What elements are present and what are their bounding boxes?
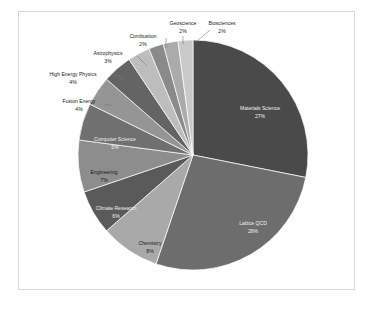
slice-percent-astrophysics: 3% bbox=[104, 58, 112, 64]
slice-label-climate-research: Climate Research bbox=[96, 205, 137, 211]
slice-percent-lattice-qcd: 26% bbox=[248, 228, 259, 234]
slice-label-biosciences: Biosciences bbox=[208, 20, 236, 26]
slice-percent-high-energy-physics: 4% bbox=[69, 79, 77, 85]
slice-label-combustion: Combustion bbox=[129, 33, 156, 39]
slice-label-lattice-qcd: Lattice QCD bbox=[239, 220, 267, 226]
slice-percent-fusion-energy: 4% bbox=[75, 106, 83, 112]
slice-label-materials-science: Materials Science bbox=[240, 105, 280, 111]
slice-label-computer-science: Computer Science bbox=[94, 136, 136, 142]
slice-label-engineering: Engineering bbox=[90, 169, 117, 175]
slice-label-geoscience: Geoscience bbox=[170, 20, 197, 26]
slice-percent-biosciences: 2% bbox=[218, 28, 226, 34]
slice-percent-geoscience: 2% bbox=[179, 28, 187, 34]
slice-label-astrophysics: Astrophysics bbox=[94, 50, 123, 56]
slice-percent-chemistry: 8% bbox=[146, 248, 154, 254]
slice-label-high-energy-physics: High Energy Physics bbox=[50, 71, 97, 77]
slice-percent-engineering: 7% bbox=[100, 177, 108, 183]
slice-percent-climate-research: 6% bbox=[112, 213, 120, 219]
slice-percent-materials-science: 27% bbox=[255, 113, 266, 119]
pie-chart-svg: Materials Science27%Lattice QCD26%Chemis… bbox=[0, 0, 389, 314]
pie-slices-group bbox=[78, 40, 308, 270]
pie-chart-figure: Materials Science27%Lattice QCD26%Chemis… bbox=[0, 0, 389, 314]
slice-percent-computer-science: 5% bbox=[111, 144, 119, 150]
slice-label-chemistry: Chemistry bbox=[139, 240, 162, 246]
slice-percent-combustion: 2% bbox=[139, 41, 147, 47]
slice-label-fusion-energy: Fusion Energy bbox=[63, 98, 96, 104]
